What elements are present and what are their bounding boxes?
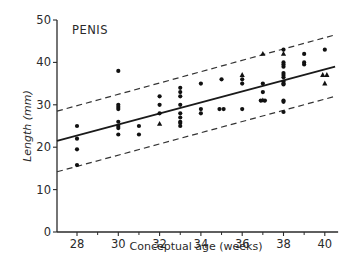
data-point-circle [178,111,182,115]
data-point-circle [158,94,162,98]
data-point-circle [281,75,285,79]
data-point-circle [217,107,221,111]
data-point-circle [158,111,162,115]
y-axis-title: Length (mm) [21,90,34,162]
data-point-triangle [322,81,327,86]
data-point-circle [222,107,226,111]
data-point-triangle [281,51,286,56]
data-point-circle [199,111,203,115]
data-point-circle [219,77,223,81]
data-points [75,48,330,168]
data-point-triangle [324,72,329,77]
regression-lines [57,35,335,172]
data-point-circle [178,124,182,128]
data-point-circle [199,107,203,111]
data-point-circle [199,82,203,86]
data-point-circle [158,103,162,107]
data-point-circle [75,147,79,151]
data-point-triangle [320,72,325,77]
data-point-circle [116,126,120,130]
x-axis-title: Conceptual age (weeks) [130,240,263,253]
data-point-circle [261,90,265,94]
data-point-circle [240,82,244,86]
data-point-circle [281,65,285,69]
x-tick-label: 28 [70,237,85,251]
y-tick-label: 0 [44,225,51,239]
regression-line [57,67,335,141]
data-point-circle [240,77,244,81]
data-point-circle [75,163,79,167]
data-point-circle [116,120,120,124]
x-tick-label: 38 [276,237,291,251]
data-point-circle [178,115,182,119]
data-point-triangle [240,72,245,77]
x-tick-label: 30 [111,237,126,251]
data-point-circle [178,103,182,107]
data-point-circle [137,132,141,136]
x-tick-label: 40 [317,237,332,251]
data-point-triangle [260,51,265,56]
data-point-circle [116,107,120,111]
data-point-circle [75,137,79,141]
data-point-circle [302,52,306,56]
data-point-triangle [157,121,162,126]
y-tick-label: 40 [36,55,51,69]
axes: 0102030405028303234363840 [36,13,338,251]
data-point-circle [178,94,182,98]
y-tick-label: 20 [36,140,51,154]
confidence-bound-upper [57,35,335,111]
data-point-circle [137,124,141,128]
data-point-circle [178,86,182,90]
data-point-circle [302,62,306,66]
data-point-circle [116,132,120,136]
data-point-circle [281,110,285,114]
y-tick-label: 10 [36,183,51,197]
data-point-circle [281,82,285,86]
data-point-circle [116,69,120,73]
data-point-circle [240,107,244,111]
scatter-chart: PENIS 0102030405028303234363840 Conceptu… [0,0,354,273]
y-tick-label: 50 [36,13,51,27]
data-point-circle [178,90,182,94]
data-point-circle [281,100,285,104]
confidence-bound-lower [57,96,335,171]
data-point-circle [75,124,79,128]
data-point-circle [261,82,265,86]
data-point-circle [323,48,327,52]
chart-title: PENIS [72,23,108,37]
y-tick-label: 30 [36,98,51,112]
